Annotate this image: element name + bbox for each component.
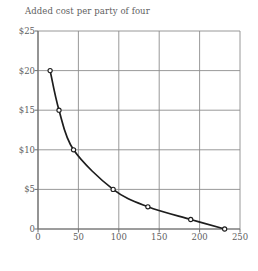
x-tick-label: 50 [73,232,84,242]
x-tick-label: 150 [151,232,167,242]
x-tick-label: 0 [35,232,40,242]
y-tick-label: $10 [19,145,35,155]
chart-title: Added cost per party of four [25,6,150,16]
y-tick-label: 0 [30,224,35,234]
chart-container: Added cost per party of four $25 $20 $15… [0,0,258,271]
x-tick-label: 100 [111,232,127,242]
x-tick-label: 250 [232,232,248,242]
y-tick-label: $20 [19,66,35,76]
plot-area: $25 $20 $15 $10 $5 0 0 50 100 150 200 25… [38,31,240,229]
y-tick-label: $25 [19,26,35,36]
x-tick-label: 200 [191,232,207,242]
y-tick-label: $5 [24,184,35,194]
y-tick-label: $15 [19,105,35,115]
